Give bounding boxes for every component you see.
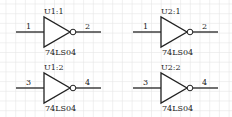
output-pin-number: 2 bbox=[85, 22, 90, 31]
inverter-gate-u2-2[interactable]: 3 4 U2:2 74LS04 bbox=[133, 63, 218, 113]
input-pin-number: 1 bbox=[143, 22, 148, 31]
inverter-gate-u1-1[interactable]: 1 2 U1:1 74LS04 bbox=[16, 7, 101, 57]
gate-part-label: 74LS04 bbox=[45, 104, 76, 113]
inversion-bubble-icon bbox=[70, 29, 76, 35]
gate-part-label: 74LS04 bbox=[162, 104, 193, 113]
inversion-bubble-icon bbox=[187, 85, 193, 91]
input-pin-number: 1 bbox=[26, 22, 31, 31]
schematic-svg: 1 2 U1:1 74LS04 1 2 U2:1 74LS04 3 4 U1:2… bbox=[0, 0, 232, 117]
gate-ref-label: U1:2 bbox=[44, 63, 64, 72]
inversion-bubble-icon bbox=[70, 85, 76, 91]
gate-ref-label: U2:1 bbox=[161, 7, 181, 16]
output-pin-number: 4 bbox=[85, 78, 90, 87]
inverter-gate-u2-1[interactable]: 1 2 U2:1 74LS04 bbox=[133, 7, 218, 57]
schematic-canvas: 1 2 U1:1 74LS04 1 2 U2:1 74LS04 3 4 U1:2… bbox=[0, 0, 232, 117]
gate-part-label: 74LS04 bbox=[45, 48, 76, 57]
input-pin-number: 3 bbox=[143, 78, 148, 87]
gate-ref-label: U2:2 bbox=[161, 63, 181, 72]
inverter-gate-u1-2[interactable]: 3 4 U1:2 74LS04 bbox=[16, 63, 101, 113]
output-pin-number: 2 bbox=[202, 22, 207, 31]
input-pin-number: 3 bbox=[26, 78, 31, 87]
gate-part-label: 74LS04 bbox=[162, 48, 193, 57]
inverter-triangle-icon bbox=[44, 73, 70, 103]
grid bbox=[0, 0, 232, 117]
output-pin-number: 4 bbox=[202, 78, 207, 87]
inversion-bubble-icon bbox=[187, 29, 193, 35]
inverter-triangle-icon bbox=[161, 73, 187, 103]
gate-ref-label: U1:1 bbox=[44, 7, 64, 16]
